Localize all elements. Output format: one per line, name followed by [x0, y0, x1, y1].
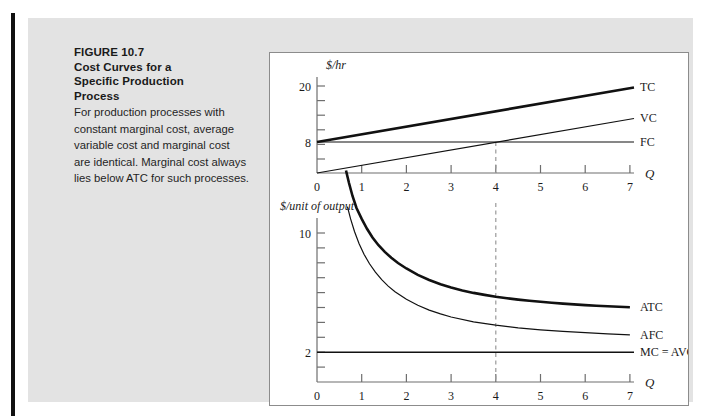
average-cost-chart: $/unit of output 10 2 0 1 2 3 4 5 6 7 Q — [280, 171, 688, 404]
top-x-tick-label-0: 0 — [314, 180, 320, 194]
top-x-tick-label-7: 7 — [627, 180, 633, 194]
top-y-axis-title: $/hr — [326, 58, 346, 72]
figure-title-line-2: Specific Production — [74, 74, 249, 89]
page-binding-bar — [11, 13, 15, 416]
afc-curve-label: AFC — [640, 328, 663, 342]
figure-page: FIGURE 10.7 Cost Curves for a Specific P… — [0, 0, 719, 420]
cost-curves-figure: $/hr 20 8 0 1 2 3 4 5 6 7 Q TC — [270, 53, 688, 405]
figure-panel: FIGURE 10.7 Cost Curves for a Specific P… — [28, 18, 693, 402]
bottom-x-tick-label-7: 7 — [627, 389, 633, 403]
top-x-tick-label-3: 3 — [448, 180, 454, 194]
afc-curve — [347, 207, 630, 335]
figure-caption: FIGURE 10.7 Cost Curves for a Specific P… — [74, 45, 249, 186]
top-x-axis-title: Q — [645, 166, 655, 181]
top-x-tick-label-4: 4 — [493, 180, 499, 194]
bottom-x-tick-label-4: 4 — [493, 389, 499, 403]
tc-curve — [317, 88, 634, 143]
bottom-y-axis-title: $/unit of output — [280, 199, 355, 213]
top-x-tick-label-1: 1 — [359, 180, 365, 194]
total-cost-chart: $/hr 20 8 0 1 2 3 4 5 6 7 Q TC — [299, 58, 657, 194]
bottom-x-tick-label-0: 0 — [314, 389, 320, 403]
figure-title-line-3: Process — [74, 89, 249, 104]
mc-avc-curve-label: MC = AVC — [640, 345, 688, 359]
top-x-tick-label-2: 2 — [403, 180, 409, 194]
atc-curve-label: ATC — [640, 300, 663, 314]
bottom-y-tick-label-2: 2 — [305, 346, 311, 360]
fc-curve-label: FC — [640, 135, 655, 149]
top-x-tick-label-5: 5 — [538, 180, 544, 194]
tc-curve-label: TC — [640, 80, 655, 94]
bottom-x-tick-label-1: 1 — [359, 389, 365, 403]
bottom-x-tick-label-5: 5 — [538, 389, 544, 403]
top-x-tick-label-6: 6 — [582, 180, 588, 194]
plot-box: $/hr 20 8 0 1 2 3 4 5 6 7 Q TC — [269, 52, 689, 406]
top-y-tick-label-8: 8 — [305, 136, 311, 150]
bottom-x-tick-label-6: 6 — [582, 389, 588, 403]
bottom-x-axis-title: Q — [645, 375, 655, 390]
bottom-y-tick-label-10: 10 — [299, 227, 311, 241]
figure-title-line-1: Cost Curves for a — [74, 60, 249, 75]
bottom-y-ticks — [317, 233, 325, 367]
top-y-ticks — [317, 86, 325, 159]
bottom-x-tick-label-3: 3 — [448, 389, 454, 403]
vc-curve — [317, 119, 634, 174]
figure-caption-body: For production processes with constant m… — [74, 104, 249, 186]
top-y-tick-label-20: 20 — [299, 80, 311, 94]
vc-curve-label: VC — [640, 111, 657, 125]
bottom-x-tick-label-2: 2 — [403, 389, 409, 403]
figure-number: FIGURE 10.7 — [74, 45, 249, 60]
